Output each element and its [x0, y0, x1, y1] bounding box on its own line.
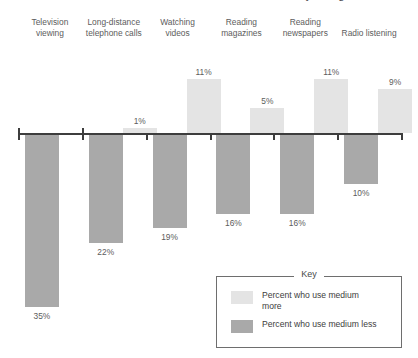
diverging-bar-chart: Percent who use medium more or less than…	[0, 0, 418, 358]
bar-negative	[89, 135, 123, 243]
bar-positive	[123, 128, 157, 133]
bar-value-negative: 10%	[336, 188, 386, 198]
bar-value-negative: 19%	[145, 232, 195, 242]
axis-tick	[82, 128, 84, 140]
bar-positive	[187, 79, 221, 133]
bar-value-positive: 11%	[179, 67, 229, 77]
bar-negative	[280, 135, 314, 214]
bar-value-positive: 5%	[242, 96, 292, 106]
legend-item-more: Percent who use medium more	[231, 290, 380, 313]
legend-title-text: Key	[294, 269, 324, 279]
legend-label-less: Percent who use medium less	[262, 319, 377, 330]
bar-value-negative: 35%	[17, 311, 67, 321]
bar-positive	[314, 79, 348, 133]
legend-item-less: Percent who use medium less	[231, 319, 377, 333]
bar-value-negative: 16%	[272, 218, 322, 228]
bar-positive	[250, 108, 284, 133]
legend-title: Key	[216, 269, 402, 279]
legend-swatch-more	[231, 291, 253, 304]
legend-box: Percent who use medium more Percent who …	[216, 276, 402, 348]
bar-value-negative: 16%	[208, 218, 258, 228]
bar-negative	[216, 135, 250, 214]
bar-value-positive: 9%	[370, 77, 418, 87]
axis-tick	[18, 128, 20, 140]
bar-positive	[378, 89, 412, 133]
legend-label-more: Percent who use medium more	[262, 290, 380, 313]
bar-negative	[153, 135, 187, 228]
bar-value-positive: 11%	[306, 67, 356, 77]
bar-value-negative: 22%	[81, 247, 131, 257]
bar-value-positive: 1%	[115, 116, 165, 126]
legend-swatch-less	[231, 320, 253, 333]
bar-negative	[344, 135, 378, 184]
bar-negative	[25, 135, 59, 307]
